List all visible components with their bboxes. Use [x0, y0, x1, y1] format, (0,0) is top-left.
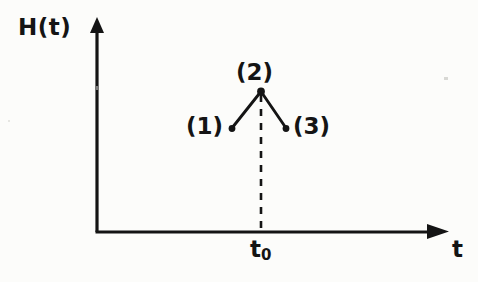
data-point-1-label: (1) [186, 115, 223, 138]
data-point-2-dot [257, 88, 265, 96]
x-axis-label: t [452, 238, 463, 261]
t0-subscript-text: 0 [261, 246, 271, 264]
scan-speck-artifact [8, 120, 10, 122]
figure-graphics [0, 0, 478, 282]
figure-canvas: H(t) t (1) (2) (3) t0 [0, 0, 478, 282]
t0-base-text: t [250, 236, 261, 262]
axes-group [90, 17, 449, 239]
x-axis-arrowhead-icon [427, 224, 449, 239]
data-point-3-label: (3) [293, 115, 330, 138]
data-point-2-label: (2) [236, 61, 273, 84]
scan-speck-artifact [444, 77, 448, 80]
y-axis-label: H(t) [18, 16, 71, 39]
t0-axis-tick-label: t0 [250, 238, 271, 263]
segment-right [261, 92, 286, 129]
data-point-1-dot [229, 125, 236, 132]
data-points-group [229, 88, 290, 132]
segment-left [232, 92, 261, 129]
curve-segments-group [232, 92, 286, 129]
data-point-3-dot [283, 125, 290, 132]
y-axis-arrowhead-icon [90, 17, 104, 33]
